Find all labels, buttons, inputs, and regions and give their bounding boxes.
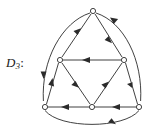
arrowhead-midright-to-midleft bbox=[82, 57, 90, 63]
arrowhead-midleft-to-top bbox=[74, 28, 82, 35]
arc-bottomleft-to-bottomright bbox=[45, 111, 139, 125]
figure-container: D3: bbox=[0, 0, 148, 136]
directed-graph-svg bbox=[0, 0, 148, 136]
edge-midleft-to-top bbox=[62, 14, 91, 57]
arrowhead-bottommid-to-midright bbox=[101, 82, 109, 89]
arrowhead-midright-to-bottomright bbox=[127, 82, 133, 88]
arrowhead-bottomright-to-bottommid bbox=[112, 104, 120, 110]
arrowhead-bottomleft-to-midleft bbox=[48, 78, 54, 87]
arrowhead-top-to-bottomleft bbox=[41, 71, 47, 79]
vertex-mid-right[interactable] bbox=[121, 57, 126, 62]
edge-top-to-midright bbox=[95, 14, 122, 57]
arrowhead-midleft-to-bottommid bbox=[71, 81, 79, 88]
vertex-top[interactable] bbox=[90, 8, 95, 13]
arrowhead-bottommid-to-bottomleft bbox=[61, 104, 69, 110]
vertex-bottom-middle[interactable] bbox=[89, 104, 94, 109]
vertex-bottom-right[interactable] bbox=[136, 104, 141, 109]
vertex-mid-left[interactable] bbox=[57, 57, 62, 62]
vertex-bottom-left[interactable] bbox=[42, 104, 47, 109]
